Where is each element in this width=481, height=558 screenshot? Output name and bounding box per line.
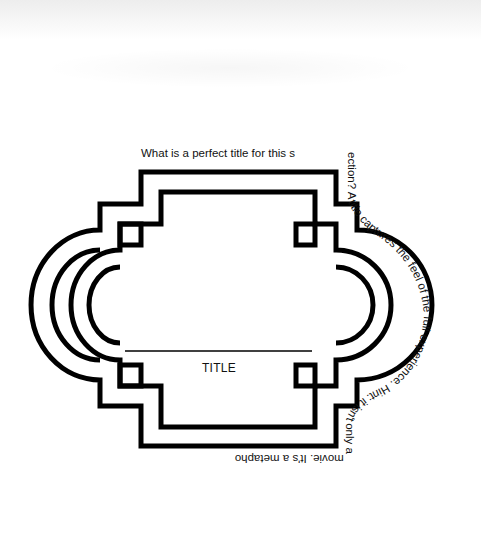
left-middle-arc [52,250,100,360]
ornamental-frame: ection? A title captures the feel of the… [0,0,481,558]
corner-square-bottom-left [120,365,141,386]
corner-square-bottom-right [296,365,315,386]
corner-square-top-right [296,224,315,245]
prompt-text-straight: What is a perfect title for this s [141,147,295,159]
left-inner-arc [89,267,120,343]
right-inner-arc [336,267,373,343]
corner-square-top-left [120,224,141,245]
title-placeholder: TITLE [169,361,269,375]
